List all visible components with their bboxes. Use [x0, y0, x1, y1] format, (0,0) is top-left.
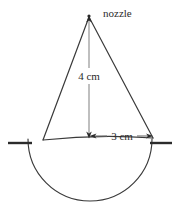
nozzle-point-marker [87, 14, 90, 17]
nozzle-label: nozzle [103, 7, 132, 19]
diagram-canvas: 4 cm 3 cm nozzle [0, 0, 177, 213]
height-dimension-label: 4 cm [78, 70, 100, 82]
radius-dimension-label: 3 cm [111, 130, 133, 142]
cone-hemisphere-figure: 4 cm 3 cm nozzle [0, 0, 177, 213]
